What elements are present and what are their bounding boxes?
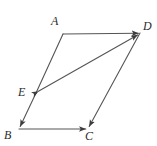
side-AE xyxy=(36,34,63,93)
figure-canvas xyxy=(0,0,157,146)
vertex-label-B: B xyxy=(4,129,11,141)
vertex-label-C: C xyxy=(85,130,93,142)
vertex-label-A: A xyxy=(51,15,58,27)
diagonal-ED xyxy=(38,35,137,91)
side-DC xyxy=(89,33,140,127)
geometry-figure: A D E B C xyxy=(0,0,157,146)
vertex-label-D: D xyxy=(143,20,152,32)
side-AD xyxy=(63,33,139,34)
vertex-label-E: E xyxy=(18,86,25,98)
